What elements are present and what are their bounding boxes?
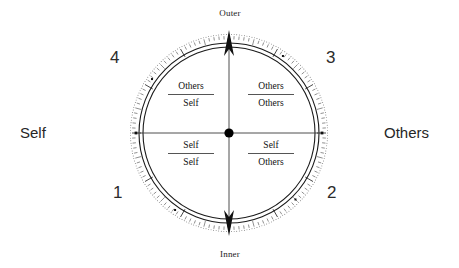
quadrant-fraction-bottom-right: Self Others (240, 141, 302, 167)
fraction-numerator: Self (240, 141, 302, 153)
quadrant-number-bottom-right: 2 (327, 183, 336, 203)
inner-axis-label: Inner (199, 249, 261, 259)
fraction-bar (168, 94, 214, 95)
fraction-numerator: Others (160, 82, 222, 94)
fraction-denominator: Self (160, 156, 222, 168)
fraction-denominator: Others (240, 156, 302, 168)
fraction-numerator: Others (240, 82, 302, 94)
quadrant-number-bottom-left: 1 (113, 183, 122, 203)
fraction-numerator: Self (160, 141, 222, 153)
center-hub (224, 128, 233, 137)
fraction-denominator: Others (240, 97, 302, 109)
quadrant-fraction-top-left: Others Self (160, 82, 222, 108)
self-axis-label: Self (20, 124, 46, 141)
others-axis-label: Others (384, 124, 429, 141)
fraction-bar (168, 153, 214, 154)
quadrant-fraction-bottom-left: Self Self (160, 141, 222, 167)
fraction-bar (248, 153, 294, 154)
fraction-denominator: Self (160, 97, 222, 109)
quadrant-number-top-right: 3 (326, 48, 335, 68)
quadrant-fraction-top-right: Others Others (240, 82, 302, 108)
fraction-bar (248, 94, 294, 95)
quadrant-number-top-left: 4 (110, 48, 119, 68)
outer-axis-label: Outer (199, 8, 261, 18)
diagram-canvas: Outer Inner Self Others 4 3 1 2 Others S… (0, 0, 459, 268)
